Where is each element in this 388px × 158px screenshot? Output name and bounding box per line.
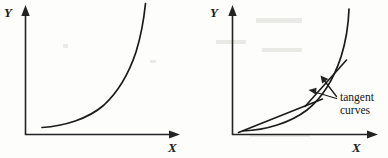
figure-two-panel-tangent-curves: Y X Y X: [0, 0, 388, 158]
left-y-axis-label: Y: [4, 5, 13, 20]
right-x-axis-label: X: [351, 140, 361, 155]
left-exponential-curve: [42, 4, 146, 128]
tangent-curves-label-line1: tangent: [340, 91, 375, 104]
tangent-curves-label-line2: curves: [340, 104, 371, 116]
lower-tangent-line: [239, 99, 323, 133]
right-panel: Y X tangent curves: [210, 5, 378, 155]
left-x-axis: [25, 130, 180, 138]
right-x-axis: [232, 130, 378, 138]
left-y-axis: [21, 5, 29, 135]
right-exponential-curve: [243, 9, 349, 131]
left-x-axis-label: X: [167, 140, 177, 155]
figure-canvas: Y X Y X: [0, 0, 388, 158]
right-y-axis-label: Y: [210, 5, 219, 20]
left-panel: Y X: [4, 4, 180, 156]
right-y-axis: [228, 5, 236, 135]
